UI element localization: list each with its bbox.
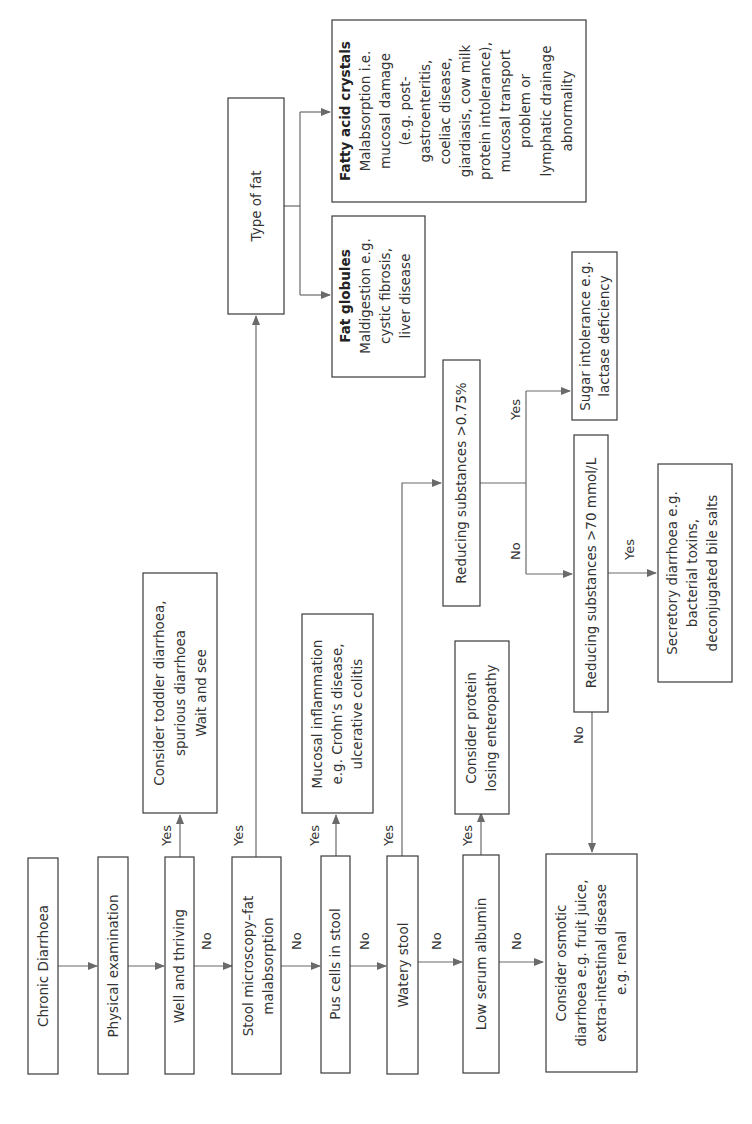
node-secretory-diarrhoea: Secretory diarrhoea e.g. bacterial toxin…: [658, 464, 732, 682]
svg-text:Wait and see: Wait and see: [193, 649, 209, 736]
svg-text:Consider protein: Consider protein: [463, 672, 479, 784]
node-fatty-acid-crystals: Fatty acid crystals Malabsorption i.e. m…: [332, 20, 586, 202]
svg-text:losing enteropathy: losing enteropathy: [483, 665, 499, 792]
svg-text:Reducing substances >70 mmol/L: Reducing substances >70 mmol/L: [583, 457, 599, 688]
node-toddler-diarrhoea: Consider toddler diarrhoea, spurious dia…: [143, 573, 217, 813]
svg-text:(e.g. post-: (e.g. post-: [397, 76, 413, 145]
node-stool-microscopy: Stool microscopy–fat malabsorption: [232, 857, 281, 1074]
node-fat-globules: Fat globules Maldigestion e.g. cystic fi…: [332, 216, 425, 377]
flowchart-svg: No Yes Yes No Yes No Yes No Yes No Yes N…: [0, 0, 752, 1124]
svg-text:coeliac disease,: coeliac disease,: [437, 57, 453, 164]
label-yes-stool: Yes: [231, 825, 246, 847]
svg-text:e.g. renal: e.g. renal: [613, 931, 629, 995]
edge-watery-reducing075: [402, 483, 441, 857]
svg-text:Secretory diarrhoea e.g.: Secretory diarrhoea e.g.: [664, 491, 680, 655]
node-chronic-diarrhoea: Chronic Diarrhoea: [28, 858, 58, 1074]
svg-text:Low serum albumin: Low serum albumin: [473, 898, 489, 1030]
svg-text:abnormality: abnormality: [559, 70, 575, 151]
node-physical-examination: Physical examination: [98, 857, 128, 1074]
svg-text:Reducing substances >0.75%: Reducing substances >0.75%: [453, 382, 469, 584]
svg-text:problem or: problem or: [517, 74, 533, 148]
svg-text:spurious diarrhoea: spurious diarrhoea: [172, 630, 188, 756]
node-well-thriving: Well and thriving: [165, 857, 194, 1074]
svg-text:Mucosal inflammation: Mucosal inflammation: [309, 640, 325, 789]
svg-text:malabsorption: malabsorption: [260, 917, 276, 1014]
label-yes-reducing075: Yes: [508, 399, 523, 421]
label-no-reducing70: No: [571, 726, 586, 744]
svg-text:Fatty acid crystals: Fatty acid crystals: [337, 41, 353, 181]
svg-text:Maldigestion e.g.: Maldigestion e.g.: [357, 238, 373, 354]
svg-text:Type of fat: Type of fat: [248, 171, 264, 243]
svg-text:Consider toddler diarrhoea,: Consider toddler diarrhoea,: [151, 600, 167, 785]
svg-text:bacterial toxins,: bacterial toxins,: [684, 519, 700, 627]
node-sugar-intolerance: Sugar intolerance e.g. lactase deficienc…: [572, 252, 617, 420]
svg-text:liver disease: liver disease: [397, 254, 413, 339]
label-yes-reducing70: Yes: [622, 539, 637, 561]
node-pus-cells: Pus cells in stool: [321, 856, 350, 1073]
svg-text:ulcerative colitis: ulcerative colitis: [349, 659, 365, 770]
node-reducing-075: Reducing substances >0.75%: [443, 360, 480, 606]
svg-text:lymphatic drainage: lymphatic drainage: [538, 46, 554, 177]
label-yes-well: Yes: [159, 825, 174, 847]
label-no-reducing075: No: [508, 542, 523, 560]
label-no-albumin: No: [509, 932, 524, 950]
node-watery-stool: Watery stool: [387, 856, 418, 1074]
svg-text:giardiasis, cow milk: giardiasis, cow milk: [457, 45, 473, 178]
label-no-pus: No: [357, 932, 372, 950]
svg-text:Consider osmotic: Consider osmotic: [553, 905, 569, 1022]
label-no-watery: No: [429, 932, 444, 950]
label-yes-pus: Yes: [307, 825, 322, 847]
label-no-stool: No: [289, 932, 304, 950]
svg-text:Malabsorption i.e.: Malabsorption i.e.: [357, 51, 373, 172]
node-reducing-70: Reducing substances >70 mmol/L: [574, 435, 608, 712]
svg-text:gastroenteritis,: gastroenteritis,: [417, 60, 433, 163]
label-no-well: No: [199, 932, 214, 950]
node-type-of-fat: Type of fat: [228, 98, 284, 314]
svg-text:Stool microscopy–fat: Stool microscopy–fat: [240, 896, 256, 1037]
svg-text:Chronic Diarrhoea: Chronic Diarrhoea: [35, 905, 51, 1027]
svg-text:cystic fibrosis,: cystic fibrosis,: [377, 248, 393, 344]
svg-text:mucosal damage: mucosal damage: [377, 53, 393, 169]
svg-text:Watery stool: Watery stool: [395, 923, 411, 1008]
svg-text:mucosal transport: mucosal transport: [497, 49, 513, 172]
svg-text:Well and thriving: Well and thriving: [171, 909, 187, 1023]
svg-text:e.g. Crohn’s disease,: e.g. Crohn’s disease,: [329, 644, 345, 785]
label-yes-watery: Yes: [381, 825, 396, 847]
svg-text:extra-intestinal disease: extra-intestinal disease: [593, 884, 609, 1042]
node-osmotic-diarrhoea: Consider osmotic diarrhoea e.g. fruit ju…: [546, 854, 637, 1072]
svg-text:Fat globules: Fat globules: [337, 249, 353, 342]
svg-text:deconjugated bile salts: deconjugated bile salts: [704, 495, 720, 652]
node-mucosal-inflammation: Mucosal inflammation e.g. Crohn’s diseas…: [302, 614, 373, 813]
node-low-serum-albumin: Low serum albumin: [463, 855, 499, 1073]
svg-text:lactase deficiency: lactase deficiency: [596, 275, 612, 396]
svg-text:Sugar intolerance e.g.: Sugar intolerance e.g.: [577, 261, 593, 411]
svg-text:diarrhoea e.g. fruit juice,: diarrhoea e.g. fruit juice,: [573, 880, 589, 1047]
node-protein-losing-enteropathy: Consider protein losing enteropathy: [455, 641, 509, 814]
flowchart-canvas: No Yes Yes No Yes No Yes No Yes No Yes N…: [0, 0, 752, 1124]
svg-text:Physical examination: Physical examination: [105, 894, 121, 1037]
label-yes-albumin: Yes: [460, 825, 475, 847]
svg-text:Pus cells in stool: Pus cells in stool: [327, 908, 343, 1020]
svg-text:protein intolerance),: protein intolerance),: [477, 42, 493, 180]
